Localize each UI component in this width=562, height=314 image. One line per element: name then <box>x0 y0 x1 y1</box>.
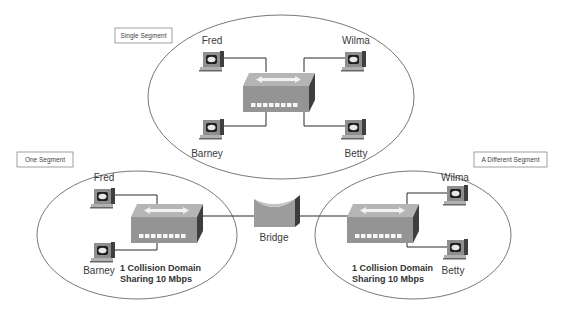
network-diagram: Single Segment Fred Wilma Barney Betty O… <box>0 0 562 314</box>
workstation-icon <box>443 185 468 206</box>
cable <box>304 112 347 126</box>
cable <box>113 195 157 205</box>
workstation-icon <box>443 239 468 260</box>
bandwidth-note: Sharing 10 Mbps <box>352 274 424 284</box>
segment-label-box: A Different Segment <box>474 152 547 167</box>
collision-domain-note: 1 Collision Domain <box>352 263 433 273</box>
workstation-icon <box>90 242 115 263</box>
host-label-barney: Barney <box>191 148 223 159</box>
bridge: Bridge <box>203 195 348 243</box>
segment-label-box: One Segment <box>17 152 73 167</box>
hub-icon <box>131 204 203 243</box>
hub-icon <box>347 204 419 243</box>
workstation-icon <box>341 51 366 72</box>
bridge-icon <box>254 195 300 227</box>
workstation-icon <box>341 119 366 140</box>
cable <box>222 112 266 126</box>
host-label-wilma: Wilma <box>441 172 469 183</box>
cable <box>222 58 266 72</box>
host-label-barney: Barney <box>83 265 115 276</box>
segment-label: Single Segment <box>121 32 167 40</box>
segment-label-box: Single Segment <box>115 28 172 43</box>
host-label-fred: Fred <box>202 35 223 46</box>
cable <box>304 58 347 72</box>
workstation-icon <box>199 119 224 140</box>
collision-domain-note: 1 Collision Domain <box>120 263 201 273</box>
workstation-icon <box>199 51 224 72</box>
bridge-label: Bridge <box>260 232 289 243</box>
segment-one: One Segment Fred Barney 1 Collision Doma… <box>17 152 237 299</box>
host-label-wilma: Wilma <box>342 35 370 46</box>
host-label-betty: Betty <box>442 265 465 276</box>
bandwidth-note: Sharing 10 Mbps <box>120 274 192 284</box>
host-label-betty: Betty <box>345 148 368 159</box>
workstation-icon <box>90 188 115 209</box>
hub-icon <box>243 73 315 112</box>
host-label-fred: Fred <box>94 172 115 183</box>
segment-label: One Segment <box>25 156 65 164</box>
segment-single: Single Segment Fred Wilma Barney Betty <box>115 15 414 179</box>
segment-label: A Different Segment <box>481 156 539 164</box>
segment-different: A Different Segment Wilma Betty 1 Collis… <box>315 152 547 299</box>
